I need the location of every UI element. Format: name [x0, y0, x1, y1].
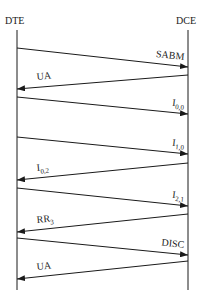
- dte-label: DTE: [5, 15, 24, 26]
- message-sabm: SABM: [17, 48, 188, 67]
- message-disc: DISC: [17, 237, 188, 255]
- message-label: RR3: [36, 212, 55, 228]
- message-i10: I1,0: [17, 137, 188, 154]
- arrow-line: [17, 137, 188, 154]
- message-label: UA: [36, 69, 52, 82]
- message-i21: I2,1: [17, 188, 188, 206]
- message-rr3: RR3: [17, 212, 188, 232]
- message-label: I2,1: [171, 189, 185, 204]
- message-arrows: SABMUAI0,0I1,0I0,2I2,1RR3DISCUA: [17, 48, 188, 279]
- message-label: I0,2: [36, 161, 50, 176]
- message-label: I0,0: [171, 97, 185, 112]
- message-label: DISC: [161, 237, 185, 250]
- message-ua: UA: [17, 69, 188, 89]
- message-i02: I0,2: [17, 161, 188, 180]
- message-label: SABM: [156, 48, 185, 62]
- sequence-diagram: DTE DCE SABMUAI0,0I1,0I0,2I2,1RR3DISCUA: [0, 0, 205, 307]
- message-ua: UA: [17, 259, 188, 279]
- message-label: I1,0: [171, 137, 185, 152]
- message-label: UA: [36, 259, 52, 272]
- message-i00: I0,0: [17, 97, 188, 114]
- arrow-line: [17, 97, 188, 114]
- dce-label: DCE: [176, 15, 196, 26]
- arrow-line: [17, 188, 188, 206]
